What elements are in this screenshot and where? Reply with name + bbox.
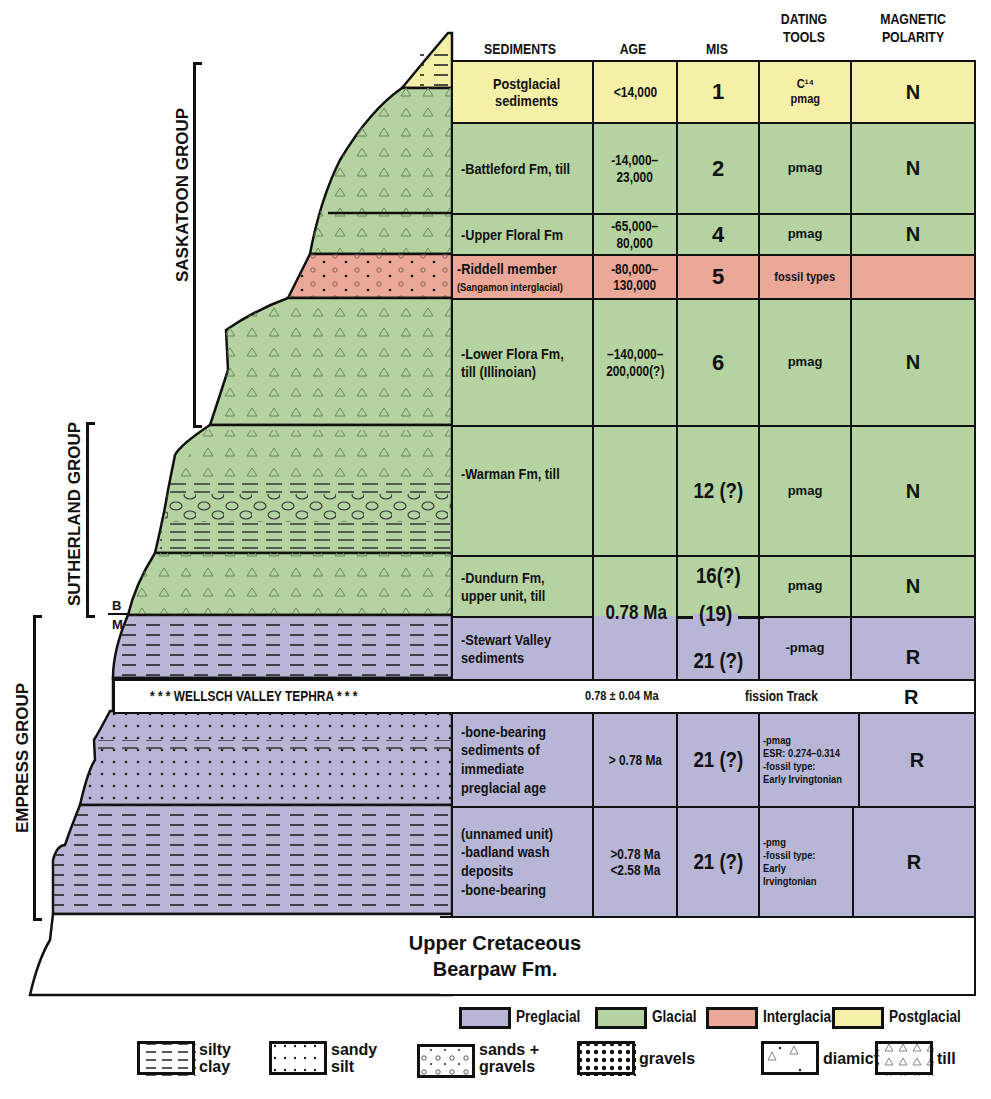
row-upper-floral-dating: pmag <box>758 213 852 256</box>
row-stewart-age <box>592 616 678 681</box>
row-stewart-dating: -pmag <box>758 616 852 681</box>
row-lower-flora-sediments: -Lower Flora Fm,till (Illinoian) <box>451 298 594 427</box>
header-sediments: SEDIMENTS <box>467 40 574 58</box>
header-polarity-line2: POLARITY <box>863 28 963 46</box>
legend-label-gravels: gravels <box>639 1050 695 1067</box>
legend-pattern-sandy-silt <box>269 1041 327 1075</box>
row-upper-floral-polarity: N <box>850 213 976 256</box>
row-warman-age <box>592 425 678 557</box>
legend-label-postglacial: Postglacial <box>889 1008 973 1026</box>
row-battleford-sediments: -Battleford Fm, till <box>451 122 594 215</box>
bedrock-line1: Upper Cretaceous <box>405 930 585 956</box>
legend-label-diamict: diamict <box>823 1050 879 1067</box>
row-unnamed-mis: 21 (?) <box>676 806 760 918</box>
legend-label-silty-clay: siltyclay <box>199 1041 231 1075</box>
row-postglacial-polarity: N <box>850 60 976 124</box>
legend-label-till: till <box>937 1050 956 1067</box>
row-postglacial-dating: C¹⁴pmag <box>758 60 852 124</box>
legend-pattern-till <box>875 1041 933 1075</box>
row-stewart-polarity: R <box>850 616 976 681</box>
empress-bracket <box>33 615 42 921</box>
legend-label-glacial: Glacial <box>652 1008 704 1026</box>
row-unnamed-sediments: (unnamed unit)-badland washdeposits-bone… <box>451 806 594 918</box>
bedrock-label: Upper Cretaceous Bearpaw Fm. <box>405 930 585 982</box>
sutherland-group-label: SUTHERLAND GROUP <box>65 422 85 606</box>
row-unnamed-age: >0.78 Ma<2.58 Ma <box>592 806 678 918</box>
header-mis: MIS <box>683 40 750 58</box>
row-stewart-sediments: -Stewart Valleysediments <box>451 616 594 681</box>
row-lower-flora-age: –140,000–200,000(?) <box>592 298 678 427</box>
row-unnamed-polarity: R <box>852 806 976 918</box>
boundary-age-label: 0.78 Ma <box>600 601 672 624</box>
row-warman-polarity: N <box>850 425 976 557</box>
row-riddell-dating: fossil types <box>758 254 852 300</box>
header-polarity-line1: MAGNETIC <box>863 10 963 28</box>
row-battleford-dating: pmag <box>758 122 852 215</box>
row-upper-floral-mis: 4 <box>676 213 760 256</box>
row-upper-floral-age: -65,000–80,000 <box>592 213 678 256</box>
header-dating-tools: DATING TOOLS <box>766 10 841 46</box>
row-bone-bearing-polarity: R <box>858 712 976 808</box>
legend-label-sandy-silt: sandysilt <box>331 1041 377 1075</box>
row-battleford-mis: 2 <box>676 122 760 215</box>
row-bone-bearing-dating: -pmagESR: 0.274–0.314-fossil type:Early … <box>758 712 860 808</box>
saskatoon-bracket <box>193 62 202 428</box>
row-warman-dating: pmag <box>758 425 852 557</box>
header-dating-line2: TOOLS <box>766 28 841 46</box>
row-bone-bearing-mis: 21 (?) <box>676 712 760 808</box>
tephra-dating: fission Track <box>745 688 831 704</box>
row-warman-mis: 12 (?) <box>676 425 760 557</box>
row-lower-flora-polarity: N <box>850 298 976 427</box>
row-postglacial-sediments: Postglacialsediments <box>451 60 594 124</box>
header-magnetic-polarity: MAGNETIC POLARITY <box>863 10 963 46</box>
row-riddell-sediments: -Riddell member(Sangamon interglacial) <box>451 254 594 300</box>
saskatoon-group-label: SASKATOON GROUP <box>173 108 193 282</box>
boundary-mis-label: (19) <box>693 601 738 627</box>
row-lower-flora-dating: pmag <box>758 298 852 427</box>
brunhes-label: B <box>112 598 121 613</box>
row-bone-bearing-sediments: -bone-bearingsediments ofimmediatepregla… <box>451 712 594 808</box>
bedrock-line2: Bearpaw Fm. <box>405 956 585 982</box>
row-battleford-age: -14,000–23,000 <box>592 122 678 215</box>
row-bone-bearing-age: > 0.78 Ma <box>592 712 678 808</box>
legend-label-sands-gravels: sands +gravels <box>479 1041 539 1075</box>
legend-pattern-sands-gravels <box>417 1044 475 1078</box>
empress-group-label: EMPRESS GROUP <box>13 683 33 833</box>
row-warman-sediments: -Warman Fm, till <box>451 425 594 557</box>
row-unnamed-dating: -pmg-fossil type:Early Irvingtonian <box>758 806 854 918</box>
legend-pattern-diamict <box>761 1041 819 1075</box>
legend-swatch-glacial <box>595 1007 647 1029</box>
sutherland-bracket <box>86 422 95 618</box>
legend-swatch-preglacial <box>459 1007 511 1029</box>
row-postglacial-age: <14,000 <box>592 60 678 124</box>
legend-swatch-postglacial <box>832 1007 884 1029</box>
row-lower-flora-mis: 6 <box>676 298 760 427</box>
row-riddell-polarity <box>850 254 976 300</box>
tephra-label: * * * WELLSCH VALLEY TEPHRA * * * <box>150 688 394 704</box>
tephra-polarity: R <box>904 686 918 709</box>
row-riddell-age: -80,000–130,000 <box>592 254 678 300</box>
tephra-age: 0.78 ± 0.04 Ma <box>585 688 672 703</box>
header-age: AGE <box>599 40 666 58</box>
row-dundurn-dating: pmag <box>758 555 852 618</box>
legend-label-preglacial: Preglacial <box>516 1008 592 1026</box>
legend-pattern-gravels <box>577 1041 635 1075</box>
row-postglacial-mis: 1 <box>676 60 760 124</box>
legend-swatch-interglacial <box>706 1007 758 1029</box>
row-battleford-polarity: N <box>850 122 976 215</box>
matuyama-label: M <box>112 617 123 632</box>
row-upper-floral-sediments: -Upper Floral Fm <box>451 213 594 256</box>
legend-pattern-silty-clay <box>137 1041 195 1075</box>
header-dating-line1: DATING <box>766 10 841 28</box>
row-dundurn-sediments: -Dundurn Fm,upper unit, till <box>451 555 594 618</box>
row-dundurn-polarity: N <box>850 555 976 618</box>
row-riddell-mis: 5 <box>676 254 760 300</box>
